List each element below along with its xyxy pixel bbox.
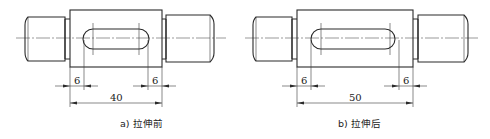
figure-b-shaft [245, 10, 478, 67]
right-journal [166, 15, 214, 62]
dim-right-offset: 6 [152, 75, 158, 86]
right-neck [162, 19, 166, 59]
figure-b-caption: b) 拉伸后 [338, 116, 381, 130]
left-journal [25, 17, 65, 61]
right-neck [413, 19, 418, 59]
dim-body-length: 40 [110, 92, 123, 103]
keyway-slot [311, 29, 395, 49]
figure-a-dimensions: 6 6 40 [55, 40, 176, 107]
drawing-canvas: 6 6 40 6 6 [0, 0, 490, 139]
dim-left-offset: 6 [74, 75, 80, 86]
figure-b-dimensions: 6 6 50 [282, 40, 427, 107]
dim-left-offset: 6 [301, 75, 307, 86]
left-neck [292, 19, 297, 59]
figure-a-caption: a) 拉伸前 [120, 116, 163, 130]
right-journal [418, 15, 468, 62]
left-neck [65, 19, 70, 59]
figure-a-shaft [16, 10, 226, 67]
left-journal [253, 17, 292, 61]
dim-body-length: 50 [349, 92, 362, 103]
body [297, 10, 413, 67]
dim-right-offset: 6 [403, 75, 409, 86]
